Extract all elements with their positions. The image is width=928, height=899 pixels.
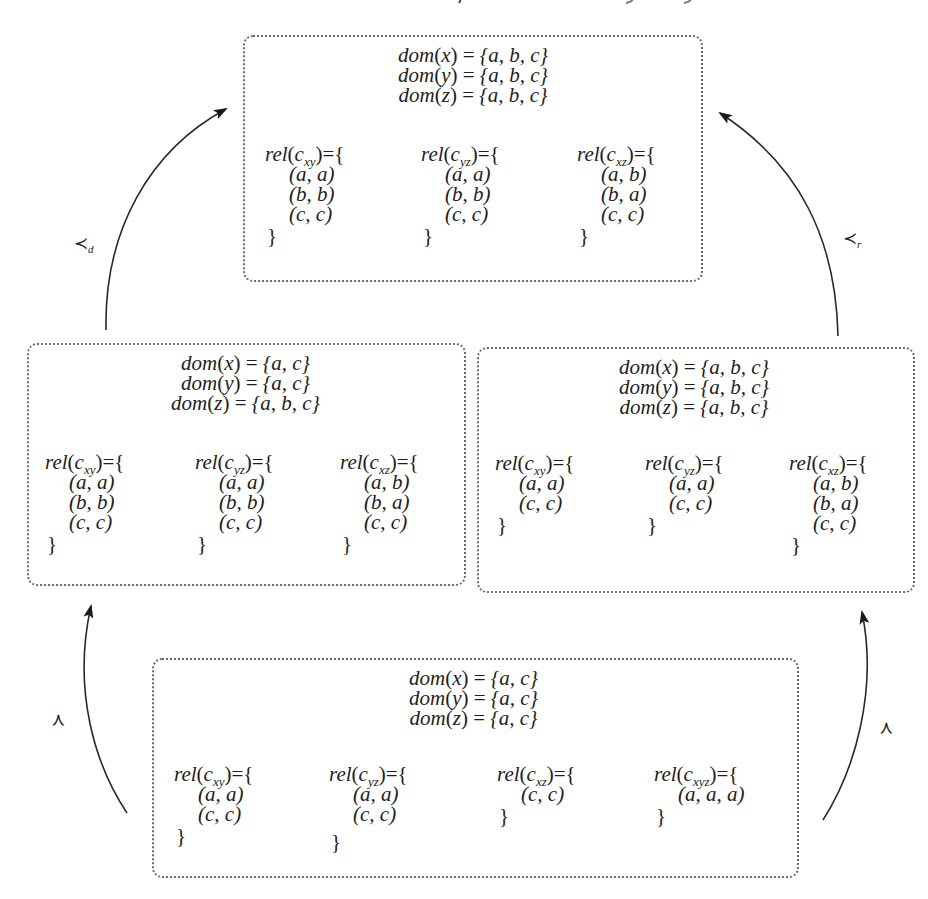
edge-arrow-d (106, 109, 226, 330)
domain-x: dom(x) = {a, b, c} (245, 45, 701, 65)
domain-z: dom(z) = {a, c} (150, 708, 797, 728)
relation-xyz: rel(cxyz)={ (a, a, a) } (654, 764, 745, 826)
precedes-icon: ≺ (843, 228, 857, 248)
domain-x: dom(x) = {a, c} (150, 668, 797, 688)
relation-yz: rel(cyz)={ (a, a) (c, c) } (329, 764, 408, 852)
domain-z: dom(z) = {a, b, c} (475, 397, 913, 417)
relation-xy: rel(cxy)={ (a, a) (c, c) } (495, 453, 574, 535)
domain-x: dom(x) = {a, b, c} (475, 357, 913, 377)
domain-y: dom(y) = {a, b, c} (475, 377, 913, 397)
relation-yz: rel(cyz)={ (a, a) (b, b) (c, c) } (195, 452, 274, 554)
relation-xz: rel(cxz)={ (a, b) (b, a) (c, c) } (577, 144, 656, 246)
state-middle-right: dom(x) = {a, b, c} dom(y) = {a, b, c} do… (477, 347, 915, 593)
precedes-icon: ≺ (877, 721, 897, 735)
relation-xy: rel(cxy)={ (a, a) (b, b) (c, c) } (265, 144, 344, 246)
relation-xz: rel(cxz)={ (a, b) (b, a) (c, c) } (789, 453, 868, 555)
relation-yz: rel(cyz)={ (a, a) (b, b) (c, c) } (421, 144, 500, 246)
state-middle-left: dom(x) = {a, c} dom(y) = {a, c} dom(z) =… (27, 343, 466, 586)
precedes-icon: ≺ (74, 233, 88, 253)
relation-xz: rel(cxz)={ (c, c) } (497, 764, 576, 826)
domain-x: dom(x) = {a, c} (27, 353, 464, 373)
relation-xz: rel(cxz)={ (a, b) (b, a) (c, c) } (340, 452, 419, 554)
edge-label-d: ≺d (74, 233, 94, 255)
state-bottom: dom(x) = {a, c} dom(y) = {a, c} dom(z) =… (152, 658, 799, 878)
state-top: dom(x) = {a, b, c} dom(y) = {a, b, c} do… (243, 35, 703, 282)
edge-label-bottom-left: ≺ (52, 710, 66, 730)
edge-arrow-bottom-right (823, 612, 867, 820)
relation-xy: rel(cxy)={ (a, a) (c, c) } (174, 764, 253, 846)
precedes-icon: ≺ (49, 713, 69, 727)
domain-y: dom(y) = {a, c} (150, 688, 797, 708)
domain-z: dom(z) = {a, b, c} (245, 85, 701, 105)
domain-y: dom(y) = {a, c} (27, 373, 464, 393)
edge-label-bottom-right: ≺ (880, 718, 894, 738)
domain-y: dom(y) = {a, b, c} (245, 65, 701, 85)
edge-arrow-bottom-left (84, 606, 127, 813)
edge-arrow-r (720, 113, 838, 336)
domain-z: dom(z) = {a, b, c} (27, 393, 464, 413)
relation-xy: rel(cxy)={ (a, a) (b, b) (c, c) } (45, 452, 124, 554)
relation-yz: rel(cyz)={ (a, a) (c, c) } (645, 453, 724, 535)
edge-label-r: ≺r (843, 228, 861, 250)
